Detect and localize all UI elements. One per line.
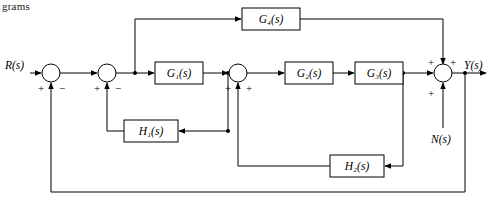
sign-s4-plus-top: + — [428, 56, 434, 68]
junction-dot-g1-branch — [133, 71, 137, 75]
junction-dot-output-branch — [463, 71, 467, 75]
block-diagram: G₄(s) G₁(s) G₂(s) G₃(s) H₁(s) H₂(s) R(s)… — [0, 0, 495, 202]
wire-h2-input — [385, 73, 403, 166]
signal-label-disturbance: N(s) — [430, 133, 451, 146]
block-h1-label: H₁(s) — [138, 125, 164, 138]
sign-s2-minus: − — [115, 82, 121, 94]
sign-s3-plus-2: + — [246, 82, 252, 94]
summing-junction-1[interactable] — [42, 64, 60, 82]
block-h2[interactable]: H₂(s) — [330, 155, 384, 177]
signal-label-input: R(s) — [4, 59, 24, 72]
sign-s1-minus: − — [59, 82, 65, 94]
block-h1[interactable]: H₁(s) — [124, 120, 178, 142]
block-g3-label: G₃(s) — [367, 67, 392, 80]
junction-dot-h1-line — [226, 129, 230, 133]
wire-h2-to-s3 — [238, 83, 330, 166]
sign-s4-plus-right: + — [450, 56, 456, 68]
block-g4-label: G₄(s) — [259, 13, 284, 26]
block-g4[interactable]: G₄(s) — [242, 8, 300, 30]
block-h2-label: H₂(s) — [344, 160, 370, 173]
block-g2-label: G₂(s) — [297, 67, 322, 80]
summing-junction-3[interactable] — [229, 64, 247, 82]
signal-label-output: Y(s) — [464, 59, 483, 72]
sign-s4-plus-bottom: + — [428, 87, 434, 99]
wire-g4-to-s4 — [300, 19, 443, 64]
summing-junction-2[interactable] — [98, 64, 116, 82]
sign-s3-plus: + — [225, 82, 231, 94]
sign-s2-plus: + — [94, 82, 100, 94]
diagram-page: grams — [0, 0, 495, 202]
block-g1-label: G₁(s) — [167, 67, 192, 80]
block-g1[interactable]: G₁(s) — [155, 62, 203, 84]
block-g3[interactable]: G₃(s) — [355, 62, 403, 84]
block-g2[interactable]: G₂(s) — [285, 62, 333, 84]
sign-s1-plus: + — [38, 82, 44, 94]
